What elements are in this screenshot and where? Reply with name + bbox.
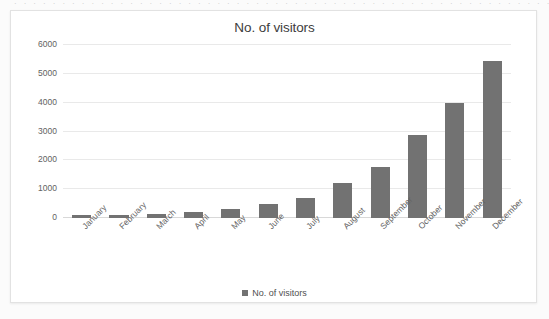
square-swatch-icon xyxy=(242,290,248,296)
bar-slot xyxy=(362,45,399,218)
x-label-slot: March xyxy=(138,220,175,278)
x-label-slot: November xyxy=(436,220,473,278)
bar-november[interactable] xyxy=(445,103,464,218)
y-axis-tick-label: 4000 xyxy=(38,97,57,107)
bar-october[interactable] xyxy=(408,135,427,218)
chart-panel: No. of visitors 010002000300040005000600… xyxy=(10,10,537,303)
x-axis-labels: JanuaryFebruaryMarchAprilMayJuneJulyAugu… xyxy=(63,220,511,278)
y-axis-tick-label: 5000 xyxy=(38,68,57,78)
bar-slot xyxy=(175,45,212,218)
chart-title: No. of visitors xyxy=(11,20,538,35)
bar-series xyxy=(63,45,511,218)
cut-off-text-sliver: · · · · · · · · · · · · · · · · · · · · … xyxy=(0,0,549,9)
bar-december[interactable] xyxy=(483,61,502,218)
y-axis-tick-label: 1000 xyxy=(38,183,57,193)
bar-slot xyxy=(399,45,436,218)
y-axis-tick-label: 0 xyxy=(52,212,57,222)
y-axis-tick-label: 2000 xyxy=(38,154,57,164)
x-label-slot: July xyxy=(287,220,324,278)
bar-slot xyxy=(436,45,473,218)
bar-slot xyxy=(100,45,137,218)
bar-september[interactable] xyxy=(371,167,390,218)
x-label-slot: December xyxy=(474,220,511,278)
x-label-slot: August xyxy=(324,220,361,278)
bar-slot xyxy=(324,45,361,218)
bar-august[interactable] xyxy=(333,183,352,218)
bar-slot xyxy=(250,45,287,218)
x-label-slot: April xyxy=(175,220,212,278)
chart-legend: No. of visitors xyxy=(11,288,538,298)
x-label-slot: September xyxy=(362,220,399,278)
legend-label: No. of visitors xyxy=(252,288,307,298)
x-label-slot: June xyxy=(250,220,287,278)
y-axis-tick-label: 3000 xyxy=(38,126,57,136)
plot-area: 0100020003000400050006000 xyxy=(63,45,511,218)
bar-slot xyxy=(212,45,249,218)
x-label-slot: May xyxy=(212,220,249,278)
y-axis-tick-label: 6000 xyxy=(38,39,57,49)
bar-slot xyxy=(138,45,175,218)
x-label-slot: February xyxy=(100,220,137,278)
x-label-slot: January xyxy=(63,220,100,278)
bar-slot xyxy=(63,45,100,218)
bar-slot xyxy=(474,45,511,218)
x-label-slot: October xyxy=(399,220,436,278)
bar-slot xyxy=(287,45,324,218)
